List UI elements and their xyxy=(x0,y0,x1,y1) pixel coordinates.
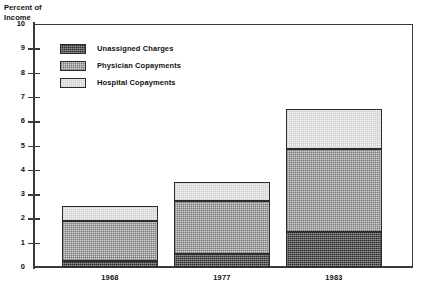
x-axis-label: 1968 xyxy=(101,273,119,282)
bar-segment[interactable] xyxy=(286,149,382,232)
y-tick-label: 4 xyxy=(21,166,25,174)
y-tick-mark xyxy=(28,170,40,172)
dark-dither-swatch xyxy=(60,44,86,54)
y-tick-label: 7 xyxy=(21,93,25,101)
y-tick-mark xyxy=(28,48,40,50)
y-tick-mark xyxy=(28,121,40,123)
y-tick-label: 6 xyxy=(21,117,25,125)
light-dither-swatch xyxy=(60,78,86,88)
bar-segment[interactable] xyxy=(62,261,158,267)
chart-legend: Unassigned Charges Physician Copayments … xyxy=(60,40,181,91)
legend-item-label: Unassigned Charges xyxy=(97,44,173,53)
y-tick-mark xyxy=(28,97,40,99)
y-tick-label: 8 xyxy=(21,69,25,77)
y-tick-label: 0 xyxy=(21,263,25,271)
bar-segment[interactable] xyxy=(286,232,382,267)
legend-item[interactable]: Hospital Copayments xyxy=(60,74,181,91)
stacked-bar[interactable] xyxy=(174,0,270,290)
bar-segment[interactable] xyxy=(62,206,158,221)
y-tick-label: 3 xyxy=(21,190,25,198)
y-tick-label: 9 xyxy=(21,45,25,53)
mid-dither-swatch xyxy=(60,61,86,71)
bar-segment[interactable] xyxy=(174,254,270,267)
stacked-bar[interactable] xyxy=(286,0,382,290)
bar-segment[interactable] xyxy=(286,109,382,149)
legend-item[interactable]: Unassigned Charges xyxy=(60,40,181,57)
y-tick-label: 1 xyxy=(21,239,25,247)
x-axis-label: 1977 xyxy=(213,273,231,282)
y-tick-mark xyxy=(28,218,40,220)
y-tick-label: 10 xyxy=(17,20,25,28)
legend-item[interactable]: Physician Copayments xyxy=(60,57,181,74)
legend-item-label: Physician Copayments xyxy=(97,61,181,70)
bar-segment[interactable] xyxy=(62,221,158,261)
bar-segment[interactable] xyxy=(174,201,270,253)
y-tick-mark xyxy=(28,243,40,245)
y-tick-mark xyxy=(28,146,40,148)
y-tick-mark xyxy=(28,194,40,196)
y-tick-label: 2 xyxy=(21,215,25,223)
y-tick-mark xyxy=(28,73,40,75)
bar-segment[interactable] xyxy=(174,182,270,201)
x-axis-label: 1983 xyxy=(325,273,343,282)
legend-item-label: Hospital Copayments xyxy=(97,78,176,87)
y-tick-label: 5 xyxy=(21,142,25,150)
